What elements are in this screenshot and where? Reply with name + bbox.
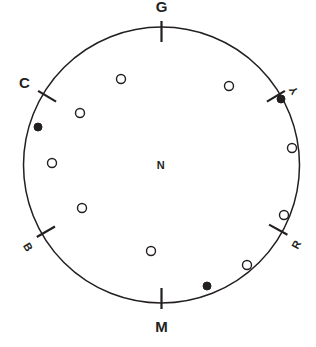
hue-axis-label-red: R (289, 238, 303, 251)
data-point (34, 123, 42, 131)
hue-circle-svg: GYRMBC N (0, 0, 316, 347)
data-point (280, 211, 289, 220)
hue-axis-label-blue: B (21, 241, 35, 254)
data-point (76, 109, 85, 118)
data-point (225, 82, 234, 91)
data-point (147, 247, 156, 256)
data-point (117, 75, 126, 84)
neutral-center-label: N (157, 159, 165, 171)
data-point-group (34, 75, 297, 291)
hue-axis-label-magenta: M (155, 318, 168, 335)
hue-axis-label-green: G (156, 0, 168, 15)
hue-circle-figure: GYRMBC N (0, 0, 316, 347)
hue-axis-label-cyan: C (19, 74, 30, 91)
data-point (243, 261, 252, 270)
data-point (288, 144, 297, 153)
data-point (78, 204, 87, 213)
center-label-group: N (157, 159, 165, 171)
data-point (203, 282, 211, 290)
data-point (277, 95, 285, 103)
hue-axis-label-yellow: Y (286, 84, 300, 97)
hue-tick-cyan (38, 91, 56, 102)
data-point (48, 159, 57, 168)
